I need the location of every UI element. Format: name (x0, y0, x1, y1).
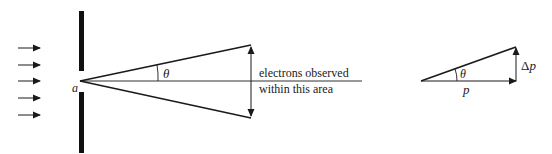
momentum-triangle: θ p Δp (421, 47, 536, 97)
angle-label-right: θ (460, 67, 466, 81)
angle-arc-left-icon (157, 65, 158, 81)
observation-label-line2: within this area (259, 82, 334, 96)
angle-label-left: θ (163, 66, 170, 81)
barrier-upper (79, 11, 84, 71)
diagram-svg: θ a electrons observed within this area … (0, 0, 552, 154)
momentum-p-label: p (462, 82, 470, 97)
delta-p-text: Δ (521, 58, 529, 73)
slit-width-label: a (72, 81, 78, 95)
barrier-lower (79, 92, 84, 153)
diagram-canvas: θ a electrons observed within this area … (0, 0, 552, 154)
resultant-momentum-line (421, 47, 516, 81)
incident-arrows (18, 48, 40, 115)
cone-lower-line (80, 81, 251, 118)
delta-p-label: Δp (521, 58, 536, 73)
angle-arc-right-icon (455, 69, 457, 81)
observation-label-line1: electrons observed (259, 66, 349, 80)
